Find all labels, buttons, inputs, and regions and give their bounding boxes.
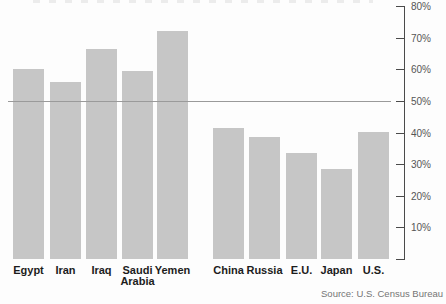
y-axis-tick-20 <box>396 196 404 197</box>
y-axis-line <box>404 6 405 260</box>
y-axis-tick-label-30: 30% <box>411 160 431 170</box>
y-axis-tick-70 <box>396 38 404 39</box>
y-axis-tick-10 <box>396 227 404 228</box>
y-axis-tick-label-20: 20% <box>411 192 431 202</box>
bar-china <box>213 128 244 259</box>
y-axis-tick-60 <box>396 69 404 70</box>
y-axis-tick-40 <box>396 133 404 134</box>
bar-iraq <box>86 49 117 259</box>
y-axis-tick-50 <box>396 101 404 102</box>
bar-e-u <box>286 153 317 259</box>
bar-u-s <box>358 132 389 259</box>
source-credit: Source: U.S. Census Bureau <box>321 288 443 299</box>
label-u-s: U.S. <box>348 265 400 276</box>
label-yemen: Yemen <box>147 265 199 276</box>
bar-iran <box>50 82 81 259</box>
bar-saudi-arabia <box>122 71 153 259</box>
y-axis-tick-label-80: 80% <box>411 2 431 12</box>
y-axis-tick-label-40: 40% <box>411 129 431 139</box>
y-axis-tick-label-60: 60% <box>411 65 431 75</box>
bar-egypt <box>13 69 44 259</box>
bar-russia <box>249 137 280 259</box>
cropped-title-remnant <box>33 0 373 3</box>
y-axis-tick-label-50: 50% <box>411 97 431 107</box>
y-axis-tick-label-70: 70% <box>411 34 431 44</box>
bar-japan <box>321 169 352 259</box>
y-axis-tick-0 <box>396 259 404 260</box>
fifty-percent-reference-line <box>8 101 391 102</box>
y-axis-tick-label-10: 10% <box>411 223 431 233</box>
population-bar-chart: 80%70%60%50%40%30%20%10% EgyptIranIraqSa… <box>0 0 446 304</box>
bar-yemen <box>157 31 188 259</box>
y-axis-tick-80 <box>396 6 404 7</box>
y-axis-tick-30 <box>396 164 404 165</box>
